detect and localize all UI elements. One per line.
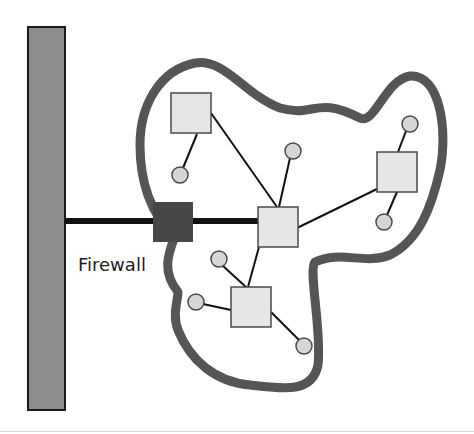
host-node <box>211 251 227 267</box>
network-backbone <box>28 27 65 410</box>
link-line <box>297 189 377 228</box>
switch-node-right <box>377 152 417 192</box>
link-line <box>279 158 290 207</box>
link-line <box>183 134 197 168</box>
firewall-label: Firewall <box>78 254 146 275</box>
link-line <box>271 312 299 340</box>
switch-node-bottom <box>231 287 271 327</box>
firewall-box <box>153 202 193 242</box>
bottom-divider <box>0 431 474 432</box>
switch-node-hub <box>258 207 298 247</box>
link-line <box>398 131 406 152</box>
host-node <box>402 116 418 132</box>
host-node <box>188 294 204 310</box>
link-line <box>387 192 397 215</box>
network-diagram: Firewall <box>0 0 474 434</box>
host-node <box>172 167 188 183</box>
link-line <box>203 304 231 310</box>
network-switches <box>171 93 417 327</box>
host-node <box>285 143 301 159</box>
host-node <box>376 214 392 230</box>
link-line <box>223 266 246 287</box>
host-node <box>296 338 312 354</box>
switch-node-top-left <box>171 93 211 133</box>
link-line <box>248 247 259 287</box>
link-line <box>211 113 277 207</box>
